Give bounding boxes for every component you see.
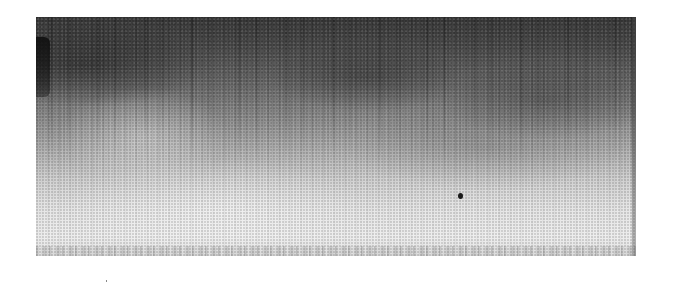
textured-surface-photo — [36, 17, 636, 256]
dark-spot — [458, 193, 463, 199]
right-edge-shadow — [632, 17, 636, 256]
edge-dark-mark — [36, 37, 50, 97]
speck — [106, 280, 107, 282]
ragged-bottom-edge — [36, 246, 636, 256]
image-canvas — [0, 0, 675, 286]
halftone-grain — [36, 17, 636, 256]
